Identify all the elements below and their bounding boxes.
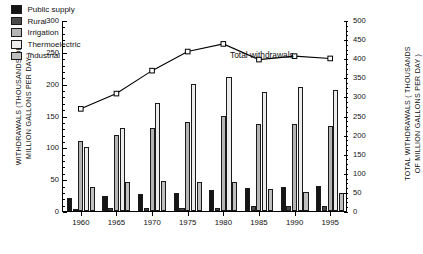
bar-rural-1965	[108, 208, 113, 211]
x-tick	[188, 212, 189, 216]
x-tick-label-1985: 1985	[239, 218, 279, 227]
y-tick-right-minor	[346, 64, 348, 65]
bar-irrigation-1965	[114, 135, 119, 211]
bar-thermoelectric-1980	[226, 77, 231, 211]
bar-rural-1970	[144, 208, 149, 211]
total-withdrawals-marker-1960	[79, 107, 84, 112]
bar-industrial-1990	[303, 192, 308, 211]
y-tick-right-minor	[346, 169, 348, 170]
y-tick-left-minor	[63, 142, 65, 143]
bar-public-supply-1985	[245, 188, 250, 211]
plot-area: Total withdrawals 0501001502002503000501…	[62, 21, 347, 212]
bar-industrial-1965	[125, 182, 130, 211]
x-tick	[223, 212, 224, 216]
total-withdrawals-label: Total withdrawals	[230, 50, 294, 60]
bar-public-supply-1965	[102, 196, 107, 211]
y-tick-left-minor	[63, 40, 65, 41]
bar-industrial-1995	[339, 193, 344, 211]
bar-irrigation-1985	[256, 124, 261, 211]
bar-public-supply-1960	[67, 198, 72, 211]
y-tick-left-minor	[63, 97, 65, 98]
y-tick-left-minor	[63, 167, 65, 168]
y-tick-right-minor	[346, 88, 348, 89]
y-tick-right-minor	[346, 74, 348, 75]
bar-thermoelectric-1985	[262, 92, 267, 211]
y-tick-right-minor	[346, 179, 348, 180]
y-tick-right-minor	[346, 107, 348, 108]
x-tick-label-1990: 1990	[275, 218, 315, 227]
y-tick-label-right: 300	[353, 93, 381, 101]
public-supply-swatch	[11, 5, 22, 14]
total-withdrawals-marker-1980	[221, 42, 226, 47]
y-tick-label-right: 400	[353, 55, 381, 63]
total-withdrawals-marker-1970	[150, 68, 155, 73]
bar-rural-1995	[322, 206, 327, 211]
y-tick-left-major	[63, 117, 67, 118]
total-withdrawals-marker-1995	[328, 56, 333, 61]
y-tick-right-minor	[346, 150, 348, 151]
y-tick-right-major	[344, 59, 348, 60]
legend-item-label: Public supply	[28, 5, 75, 14]
y-tick-label-left: 300	[33, 17, 59, 25]
y-tick-right-major	[344, 21, 348, 22]
y-tick-right-minor	[346, 145, 348, 146]
y-tick-right-major	[344, 40, 348, 41]
y-tick-label-left: 150	[33, 113, 59, 121]
y-tick-left-major	[63, 180, 67, 181]
y-tick-label-left: 0	[33, 208, 59, 216]
bar-irrigation-1960	[78, 141, 83, 211]
x-tick	[259, 212, 260, 216]
y-tick-right-minor	[346, 50, 348, 51]
y-tick-right-minor	[346, 54, 348, 55]
y-tick-left-minor	[63, 34, 65, 35]
y-tick-left-minor	[63, 27, 65, 28]
y-tick-left-minor	[63, 136, 65, 137]
y-tick-left-minor	[63, 110, 65, 111]
y-tick-right-major	[344, 97, 348, 98]
y-tick-left-major	[63, 21, 67, 22]
x-tick	[116, 212, 117, 216]
bar-public-supply-1975	[174, 193, 179, 211]
x-tick-label-1995: 1995	[310, 218, 350, 227]
y-tick-right-minor	[346, 159, 348, 160]
thermoelectric-swatch	[11, 40, 22, 49]
y-tick-left-minor	[63, 129, 65, 130]
y-tick-left-minor	[63, 174, 65, 175]
bar-industrial-1960	[90, 187, 95, 211]
y-tick-label-right: 200	[353, 132, 381, 140]
y-tick-left-minor	[63, 155, 65, 156]
bar-rural-1985	[251, 206, 256, 211]
legend-item-label: Irrigation	[28, 28, 59, 37]
bar-industrial-1975	[197, 182, 202, 211]
y-tick-right-minor	[346, 45, 348, 46]
bar-irrigation-1990	[292, 124, 297, 211]
legend-item: Public supply	[11, 5, 80, 14]
bar-thermoelectric-1960	[84, 147, 89, 211]
y-tick-left-minor	[63, 187, 65, 188]
y-tick-left-minor	[63, 78, 65, 79]
y-tick-right-major	[344, 212, 348, 213]
y-tick-right-minor	[346, 198, 348, 199]
y-tick-left-minor	[63, 59, 65, 60]
y-tick-label-right: 0	[353, 208, 381, 216]
y-tick-right-major	[344, 78, 348, 79]
bar-irrigation-1995	[328, 126, 333, 211]
y-tick-left-minor	[63, 104, 65, 105]
y-tick-left-major	[63, 148, 67, 149]
x-tick	[295, 212, 296, 216]
y-tick-left-minor	[63, 66, 65, 67]
bar-public-supply-1995	[316, 186, 321, 211]
y-tick-left-major	[63, 212, 67, 213]
bar-irrigation-1975	[185, 122, 190, 211]
y-tick-label-right: 150	[353, 151, 381, 159]
y-tick-left-major	[63, 85, 67, 86]
y-tick-right-major	[344, 117, 348, 118]
y-tick-right-minor	[346, 69, 348, 70]
y-tick-right-major	[344, 136, 348, 137]
y-tick-right-minor	[346, 183, 348, 184]
y-tick-right-minor	[346, 83, 348, 84]
bar-public-supply-1980	[209, 190, 214, 211]
y-tick-label-left: 200	[33, 81, 59, 89]
bar-thermoelectric-1990	[298, 87, 303, 211]
